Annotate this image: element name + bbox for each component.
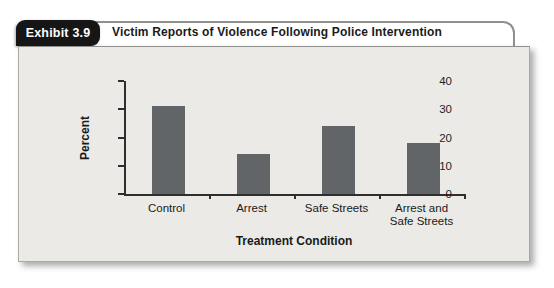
bars-container [126,81,466,194]
bar-slot-safe-streets [296,81,381,194]
y-axis-title-label: Percent [78,115,92,159]
bar-slot-arrest [211,81,296,194]
category-label-safe-streets: Safe Streets [294,202,379,228]
x-tick-mark-2 [294,194,296,199]
x-tick-mark-1 [209,194,211,199]
category-labels: ControlArrestSafe StreetsArrest and Safe… [124,202,464,228]
category-label-arrest: Arrest [209,202,294,228]
exhibit-tab-label: Exhibit 3.9 [26,26,91,40]
exhibit-title: Victim Reports of Violence Following Pol… [112,25,442,39]
bar-control [152,106,185,194]
exhibit-card: Exhibit 3.9 Victim Reports of Violence F… [0,0,554,288]
y-tick-label-40: 40 [422,74,452,88]
y-tick-label-30: 30 [422,102,452,116]
x-tick-mark-4 [464,194,466,199]
category-label-arrest-and-safe-streets: Arrest and Safe Streets [379,202,464,228]
chart-panel: Percent 010203040 ControlArrestSafe Stre… [18,46,530,262]
y-tick-mark-20 [118,137,124,139]
y-axis-title: Percent [77,81,93,194]
category-label-control: Control [124,202,209,228]
x-axis-title: Treatment Condition [124,234,464,248]
y-tick-label-20: 20 [422,131,452,145]
y-tick-label-10: 10 [422,159,452,173]
y-tick-mark-40 [118,80,124,82]
y-tick-mark-10 [118,165,124,167]
bar-arrest [237,154,270,194]
bar-slot-control [126,81,211,194]
x-tick-mark-3 [379,194,381,199]
plot-area: 010203040 [124,81,466,196]
y-tick-label-0: 0 [422,187,452,201]
exhibit-tab: Exhibit 3.9 [16,20,100,46]
y-tick-mark-0 [118,193,124,195]
y-tick-mark-30 [118,108,124,110]
bar-safe-streets [322,126,355,194]
